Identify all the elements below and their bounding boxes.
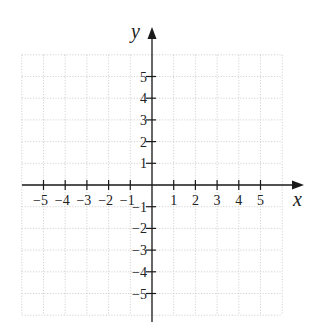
y-tick-label: 2	[140, 135, 147, 150]
x-tick-label: 4	[235, 193, 242, 208]
y-tick-label: 3	[140, 113, 147, 128]
x-tick-label: −3	[76, 193, 91, 208]
y-tick-label: −3	[132, 243, 147, 258]
y-axis-arrow-icon	[148, 27, 157, 39]
x-tick-label: 2	[192, 193, 199, 208]
x-tick-label: 1	[170, 193, 177, 208]
coordinate-plane: x y −5−4−3−2−112345−5−4−3−2−112345	[0, 0, 319, 330]
y-tick-label: −1	[132, 200, 147, 215]
y-tick-label: 4	[140, 91, 147, 106]
x-tick-label: −2	[98, 193, 113, 208]
y-tick-label: −2	[132, 221, 147, 236]
y-tick-label: 1	[140, 156, 147, 171]
x-tick-label: 3	[214, 193, 221, 208]
x-tick-label: −5	[33, 193, 48, 208]
axes: x y	[22, 20, 304, 322]
x-tick-label: 5	[257, 193, 264, 208]
x-tick-label: −4	[55, 193, 70, 208]
y-tick-label: −5	[132, 287, 147, 302]
y-tick-label: −4	[132, 265, 147, 280]
y-axis-label: y	[129, 20, 140, 43]
y-tick-label: 5	[140, 70, 147, 85]
x-axis-label: x	[292, 188, 302, 210]
